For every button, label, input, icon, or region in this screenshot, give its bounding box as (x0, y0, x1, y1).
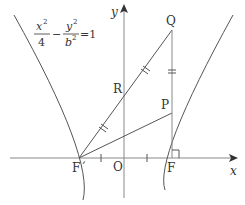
y-axis-label: y (110, 5, 118, 19)
eq-y-den: b (65, 36, 72, 49)
eq-y-den-exp: 2 (72, 34, 76, 42)
eq-y-num: y (65, 20, 73, 33)
point-fprime-label: F´ (72, 161, 86, 175)
hyperbola-equation: x 2 4 − y 2 b 2 =1 (34, 18, 96, 49)
axes (10, 4, 238, 198)
equal-tick-r-q (141, 66, 150, 74)
eq-minus: − (52, 28, 61, 41)
segment-fprime-q (79, 30, 172, 158)
eq-x-den: 4 (38, 36, 45, 49)
point-r-label: R (113, 82, 123, 96)
eq-x-exp: 2 (43, 18, 47, 26)
x-axis-label: x (230, 164, 237, 178)
segment-fprime-p (79, 113, 172, 158)
diagram-canvas: x 2 4 − y 2 b 2 =1 y x O Q P R F F´ (0, 0, 245, 205)
point-q-label: Q (166, 14, 176, 28)
hyperbola-diagram: x 2 4 − y 2 b 2 =1 y x O Q P R F F´ (0, 0, 245, 205)
eq-equals: =1 (80, 28, 96, 41)
point-f-label: F (167, 161, 175, 175)
equal-tick-fprime-r (99, 124, 108, 132)
right-angle-mark (172, 150, 179, 158)
point-p-label: P (161, 98, 169, 112)
eq-x-num: x (36, 20, 43, 33)
eq-y-exp: 2 (73, 18, 77, 26)
origin-label: O (113, 160, 123, 174)
